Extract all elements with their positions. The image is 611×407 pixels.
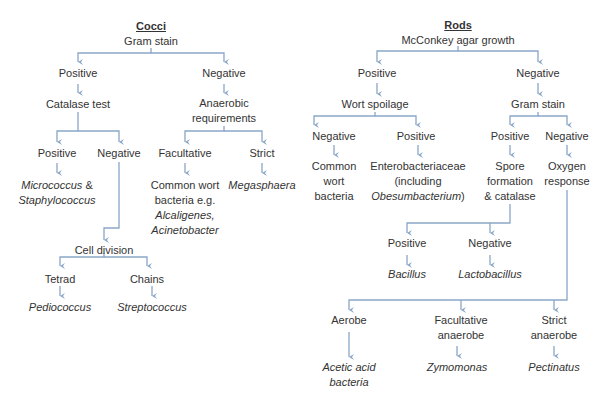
facultative: Facultative (158, 146, 211, 161)
genus-name: Obesumbacterium (371, 190, 461, 202)
rods-gram-stain: Gram stain (511, 97, 565, 112)
label-line: Acetic acid (322, 361, 375, 373)
wort-spoilage: Wort spoilage (341, 97, 408, 112)
aerobe: Aerobe (331, 313, 366, 328)
chains: Chains (130, 272, 164, 287)
gram-positive: Positive (491, 129, 530, 144)
label-line: bacteria (314, 190, 353, 202)
genus-name: Staphylococcus (18, 194, 95, 206)
label-line: anaerobe (531, 329, 578, 341)
megasphaera: Megasphaera (228, 178, 295, 193)
label-line: bacteria e.g. (155, 194, 216, 206)
label-line: Enterobacteriaceae (370, 160, 465, 172)
cocci-title: Cocci (136, 19, 166, 34)
enterobacteriaceae: Enterobacteriaceae (including Obesumbact… (370, 159, 465, 204)
streptococcus: Streptococcus (117, 300, 187, 315)
catalase-negative: Negative (97, 146, 140, 161)
cell-division: Cell division (75, 243, 134, 258)
label-line: Facultative (434, 314, 487, 326)
spore-negative: Negative (468, 236, 511, 251)
anaerobic-requirements: Anaerobic requirements (192, 96, 256, 126)
bacillus: Bacillus (388, 267, 426, 282)
genus-name: Micrococcus (21, 179, 82, 191)
strict: Strict (249, 146, 274, 161)
rods-positive: Positive (358, 66, 397, 81)
cocci-positive: Positive (59, 66, 98, 81)
label-line: wort (324, 175, 345, 187)
label-line: & catalase (484, 190, 535, 202)
genus-name: Alcaligenes, (155, 209, 214, 221)
cocci-negative: Negative (202, 66, 245, 81)
micrococcus-staphylococcus: Micrococcus & Staphylococcus (18, 178, 95, 208)
tetrad: Tetrad (45, 272, 76, 287)
strict-anaerobe: Strict anaerobe (531, 313, 578, 343)
pectinatus: Pectinatus (528, 360, 579, 375)
label-line: requirements (192, 112, 256, 124)
lactobacillus: Lactobacillus (458, 267, 522, 282)
rods-negative: Negative (516, 66, 559, 81)
acetic-acid-bacteria: Acetic acid bacteria (322, 360, 375, 390)
rods-title: Rods (444, 18, 472, 33)
pediococcus: Pediococcus (29, 300, 91, 315)
cocci-gram-stain: Gram stain (124, 34, 178, 49)
wort-spoilage-positive: Positive (397, 129, 436, 144)
label-line: bacteria (329, 376, 368, 388)
genus-name: Acinetobacter (151, 224, 218, 236)
catalase-positive: Positive (38, 146, 77, 161)
label-line: Strict (541, 314, 566, 326)
label-line: (including (394, 175, 441, 187)
catalase-test: Catalase test (46, 97, 110, 112)
wort-spoilage-negative: Negative (312, 129, 355, 144)
label-line: Oxygen (548, 160, 586, 172)
spore-formation-catalase: Spore formation & catalase (484, 159, 535, 204)
label-line: Spore (495, 160, 524, 172)
label-line: formation (487, 175, 533, 187)
label-line: Common wort (151, 179, 219, 191)
common-wort-bacteria-rods: Common wort bacteria (312, 159, 357, 204)
mcconkey-agar-growth: McConkey agar growth (401, 33, 514, 48)
label-line: Common (312, 160, 357, 172)
label-line: Anaerobic (199, 97, 249, 109)
label-line: anaerobe (438, 329, 485, 341)
label-text: & (82, 179, 92, 191)
common-wort-bacteria: Common wort bacteria e.g. Alcaligenes, A… (151, 178, 219, 238)
label-line: response (544, 175, 589, 187)
facultative-anaerobe: Facultative anaerobe (434, 313, 487, 343)
zymomonas: Zymomonas (427, 360, 488, 375)
spore-positive: Positive (388, 236, 427, 251)
gram-negative: Negative (545, 129, 588, 144)
oxygen-response: Oxygen response (544, 159, 589, 189)
label-text: ) (461, 190, 465, 202)
